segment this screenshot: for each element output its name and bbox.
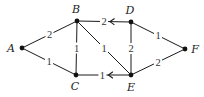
node-e-dot xyxy=(129,73,134,78)
node-c-label: C xyxy=(71,80,80,93)
edge-b-c-weight-label: 1 xyxy=(74,43,79,54)
node-f-label: F xyxy=(190,43,199,56)
edge-d-b-weight-label: 2 xyxy=(101,16,106,27)
edge-a-c-weight-label: 1 xyxy=(46,56,51,67)
node-f-dot xyxy=(183,47,188,52)
node-b-dot xyxy=(75,19,80,24)
node-e-label: E xyxy=(126,81,135,94)
edge-d-f-weight-label: 1 xyxy=(155,30,160,41)
edge-d-e-weight-label: 2 xyxy=(128,43,133,54)
edge-a-b-weight-label: 2 xyxy=(47,29,52,40)
edge-b-e-weight-label: 1 xyxy=(101,43,106,54)
node-c-dot xyxy=(74,73,79,78)
edge-labels-layer: 211121212 xyxy=(45,16,162,81)
node-d-label: D xyxy=(125,4,135,17)
edge-e-f-weight-label: 2 xyxy=(155,57,160,68)
node-d-dot xyxy=(129,20,134,25)
node-b-label: B xyxy=(71,3,80,16)
node-a-label: A xyxy=(6,42,15,55)
weighted-graph-diagram: 211121212 ABCDEF xyxy=(0,0,204,97)
edge-e-c-weight-label: 1 xyxy=(100,70,105,81)
node-a-dot xyxy=(20,46,25,51)
